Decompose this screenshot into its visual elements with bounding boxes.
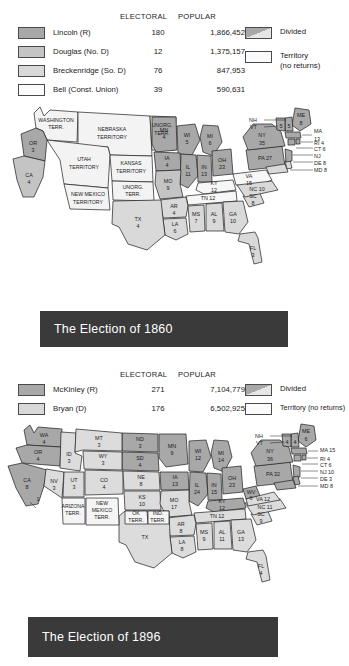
territory-label-newmexico: NEW MEXICO: [71, 191, 105, 197]
state-label-mt: MT: [95, 435, 103, 441]
state-label-va: VA: [246, 173, 253, 179]
state-label-il: IL: [195, 482, 200, 488]
state-votes-me: 8: [300, 120, 303, 126]
state-votes-vt-inline: 4: [286, 439, 289, 445]
state-label-co: CO: [100, 477, 108, 483]
state-label-ar: AR: [177, 521, 185, 527]
state-votes-mi: 6: [209, 140, 212, 146]
state-label-in: IN: [201, 164, 206, 170]
state-votes-oh: 23: [229, 482, 235, 488]
legend-popular-votes: 847,953: [183, 66, 245, 75]
state-wisconsin: [177, 124, 200, 155]
state-label-ks: KS: [138, 494, 146, 500]
legend-popular-votes: 1,375,157: [183, 47, 245, 56]
state-label-ct: CT 6: [314, 146, 326, 152]
state-label-ia: IA: [172, 474, 177, 480]
legend-1860: ELECTORAL POPULAR Lincoln (R) 180 1,866,…: [0, 0, 349, 104]
state-label-tn: TN 12: [201, 195, 216, 201]
legend-candidate-name: Breckenridge (So. D): [53, 66, 126, 75]
state-votes-nh-inline: 4: [294, 439, 297, 445]
state-label-de: DE 8: [314, 160, 326, 166]
state-votes-il: 11: [185, 171, 191, 177]
legend-candidate-name: Lincoln (R): [53, 28, 91, 37]
legend-swatch-breckenridge: [18, 65, 45, 77]
state-votes-nv: 3: [53, 485, 56, 491]
legend-swatch-divided: [245, 384, 272, 396]
state-votes-ny: 36: [267, 456, 273, 462]
state-votes-id: 3: [68, 458, 71, 464]
state-votes-wi: 12: [195, 455, 201, 461]
state-label-vt: VT: [250, 124, 258, 130]
state-label-wa: WA: [40, 432, 49, 438]
state-votes-co: 4: [103, 484, 106, 490]
map-title: The Election of 1896: [28, 630, 161, 644]
legend-1896: ELECTORAL POPULAR McKinley (R) 271 7,104…: [0, 362, 349, 420]
state-votes-al: 11: [219, 536, 225, 542]
state-label-nc: NC 11: [258, 504, 273, 510]
state-label-me: ME: [302, 428, 310, 434]
state-votes-ar: 8: [180, 528, 183, 534]
territory-label-ind-2: TERR.: [150, 517, 166, 523]
legend-electoral-votes: 39: [138, 85, 178, 94]
state-newjersey: [285, 149, 292, 162]
state-votes-la: 6: [174, 228, 177, 234]
state-label-il: IL: [186, 164, 191, 170]
state-votes-fl: 4: [260, 570, 263, 576]
territory-label-nebraska: NEBRASKA: [98, 126, 127, 132]
state-label-nd: ND: [136, 436, 144, 442]
territory-label-washington-2: TERR.: [48, 124, 64, 130]
state-label-in: IN: [211, 482, 216, 488]
territory-label-unorg-north-a: UNORG.: [152, 122, 173, 128]
legend-popular-votes: 7,104,779: [183, 385, 245, 394]
legend-electoral-votes: 271: [138, 385, 178, 394]
state-votes-or: 4: [37, 456, 40, 462]
territory-label-kansas-2: TERRITORY: [116, 168, 146, 174]
state-connecticut: [288, 139, 295, 145]
state-label-fl: FL: [250, 245, 256, 251]
state-votes-sc: 8: [252, 200, 255, 206]
state-label-nh: NH: [249, 117, 257, 123]
state-votes-mi: 14: [218, 457, 224, 463]
state-votes-il: 24: [194, 489, 200, 495]
state-votes-in: 15: [211, 489, 217, 495]
state-label-tn: TN 12: [210, 513, 225, 519]
legend-column-electoral: ELECTORAL: [120, 370, 167, 379]
state-label-ma: MA 15: [320, 447, 335, 453]
state-votes-ia: 4: [166, 162, 169, 168]
map-1860: OR3 CA4 MN4 WI5 IA4 MI6 IL11 IN13 OH23 M…: [0, 104, 349, 299]
state-votes-ms: 9: [203, 536, 206, 542]
legend-candidate-name: Bryan (D): [53, 404, 86, 413]
territory-label-ok: OK: [132, 510, 140, 516]
territory-label-washington: WASHINGTON: [38, 117, 74, 123]
election-1896-panel: ELECTORAL POPULAR McKinley (R) 271 7,104…: [0, 362, 349, 666]
state-votes-oh: 23: [219, 164, 225, 170]
state-votes-ca: 8: [26, 484, 29, 490]
state-label-id: ID: [66, 451, 71, 457]
state-label-ut: UT: [70, 477, 78, 483]
state-label-vt: VT: [256, 440, 264, 446]
legend-popular-votes: 590,631: [183, 85, 245, 94]
state-label-nh: NH: [255, 433, 263, 439]
territory-label-kansas: KANSAS: [120, 160, 142, 166]
territory-label-unorg-north-b: TERR.: [154, 130, 170, 136]
state-label-sc: SC: [249, 193, 257, 199]
state-votes-ks: 10: [139, 501, 145, 507]
state-label-oh: OH: [218, 157, 226, 163]
legend-divided-label: Divided: [280, 384, 306, 394]
state-label-ca: CA: [23, 477, 31, 483]
legend-candidate-name: McKinley (R): [53, 385, 98, 394]
territory-label-arizona-2: TERR.: [65, 510, 81, 516]
territory-label-ind: IND.: [153, 510, 163, 516]
state-label-oh: OH: [228, 475, 236, 481]
state-minnesota: [159, 434, 188, 467]
legend-candidate-name: Bell (Const. Union): [53, 85, 118, 94]
state-votes-mo: 17: [171, 504, 177, 510]
state-label-la: LA: [179, 539, 186, 545]
state-votes-vt-inline: 5: [280, 123, 283, 129]
state-label-me: ME: [297, 112, 305, 118]
state-label-or: OR: [34, 449, 42, 455]
state-label-de: DE 3: [320, 476, 332, 482]
state-label-pa: PA 32: [266, 471, 280, 477]
territory-label-newmexico-3: TERR.: [94, 514, 110, 520]
state-votes-mt: 3: [98, 442, 101, 448]
